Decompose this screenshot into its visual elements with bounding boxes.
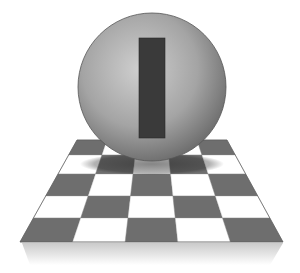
floor-tile-dark: [69, 140, 107, 155]
floor-tile-light: [33, 196, 88, 218]
floor-tile-dark: [223, 218, 283, 242]
floor-tile-light: [128, 196, 175, 218]
illustration: [0, 0, 300, 273]
floor-tile-light: [73, 218, 128, 242]
floor-tile-dark: [173, 196, 223, 218]
floor-reflection: [22, 243, 283, 265]
floor-tile-light: [215, 196, 269, 218]
floor-tile-light: [175, 218, 230, 242]
floor-tile-dark: [125, 218, 178, 242]
floor-tile-dark: [131, 174, 173, 196]
floor-tile-dark: [46, 174, 96, 196]
floor-tile-light: [171, 174, 216, 196]
vertical-bar: [139, 38, 165, 138]
floor-tile-dark: [81, 196, 131, 218]
floor-tile-dark: [197, 140, 235, 155]
floor-tile-light: [88, 174, 133, 196]
floor-tile-dark: [208, 174, 258, 196]
floor-tile-dark: [20, 218, 81, 242]
